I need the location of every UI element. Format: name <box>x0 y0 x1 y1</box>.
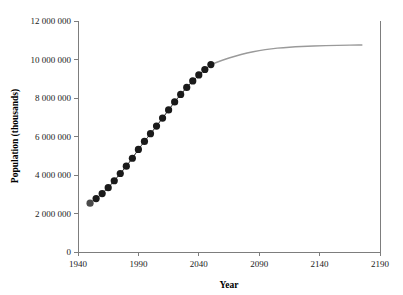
x-tick-label: 1940 <box>69 259 88 269</box>
x-tick-label: 2140 <box>311 259 330 269</box>
data-point-marker <box>183 84 190 91</box>
y-tick-label: 0 <box>67 247 72 257</box>
data-point-marker <box>105 184 112 191</box>
y-tick-label: 6 000 000 <box>35 132 72 142</box>
data-point-marker <box>93 195 100 202</box>
data-point-marker <box>165 106 172 113</box>
data-point-marker <box>189 77 196 84</box>
data-point-marker <box>111 177 118 184</box>
data-point-marker <box>159 114 166 121</box>
y-axis-title: Population (thousands) <box>10 89 21 183</box>
data-point-marker <box>129 155 136 162</box>
data-point-marker <box>147 130 154 137</box>
data-point-marker <box>207 61 214 68</box>
data-point-marker <box>201 66 208 73</box>
x-tick-label: 1990 <box>129 259 148 269</box>
y-tick-label: 2 000 000 <box>35 209 72 219</box>
data-point-marker <box>171 98 178 105</box>
y-tick-label: 8 000 000 <box>35 93 72 103</box>
data-point-marker <box>153 122 160 129</box>
population-projection-chart: 02 000 0004 000 0006 000 0008 000 00010 … <box>0 0 403 295</box>
x-axis-ticks: 194019902040209021402190 <box>69 252 390 269</box>
data-point-marker <box>86 200 93 207</box>
x-tick-label: 2190 <box>371 259 390 269</box>
x-tick-label: 2090 <box>250 259 269 269</box>
data-point-marker <box>123 163 130 170</box>
x-axis-title: Year <box>220 280 240 290</box>
data-point-marker <box>135 146 142 153</box>
observed-population-markers <box>86 61 214 207</box>
data-point-marker <box>195 71 202 78</box>
chart-canvas: 02 000 0004 000 0006 000 0008 000 00010 … <box>0 0 403 295</box>
y-tick-label: 4 000 000 <box>35 170 72 180</box>
y-tick-label: 12 000 000 <box>31 16 72 26</box>
x-tick-label: 2040 <box>190 259 209 269</box>
y-tick-label: 10 000 000 <box>31 55 72 65</box>
data-point-marker <box>99 190 106 197</box>
data-point-marker <box>141 138 148 145</box>
projected-population-line <box>211 45 362 65</box>
y-axis-ticks: 02 000 0004 000 0006 000 0008 000 00010 … <box>31 16 79 257</box>
data-point-marker <box>117 170 124 177</box>
data-point-marker <box>177 91 184 98</box>
